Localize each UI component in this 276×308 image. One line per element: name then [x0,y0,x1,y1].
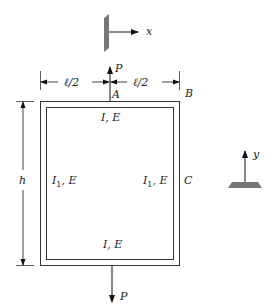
top-load: P A [110,62,123,101]
top-load-label: P [114,62,123,75]
point-b-label: B [184,87,193,100]
right-half-dimension-label: ℓ/2 [133,76,148,89]
height-dimension: h [16,102,34,266]
left-member-label: I1, E [51,174,76,189]
height-label: h [19,174,26,187]
point-a-label: A [111,88,120,101]
frame-diagram: x y ℓ/2 ℓ/2 P A B C h I, E I, E [0,0,276,308]
x-axis-symbol: x [104,14,153,52]
y-axis-symbol: y [228,148,262,188]
bottom-load: P [112,266,128,303]
left-half-dimension-label: ℓ/2 [64,76,79,89]
bottom-load-label: P [119,290,128,303]
wall-support-icon [104,14,109,52]
top-member-label: I, E [100,111,120,124]
bottom-member-label: I, E [102,238,122,251]
right-member-label: I1, E [142,174,167,189]
x-axis-label: x [146,25,153,38]
point-c-label: C [184,174,193,187]
y-axis-label: y [252,148,260,161]
ground-support-icon [228,182,262,188]
